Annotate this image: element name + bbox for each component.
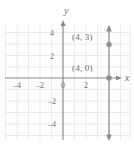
x-tick-label-0: 0 [55,82,71,90]
x-tick-label-neg2: –2 [32,82,48,90]
y-tick-label-neg4: –4 [44,121,60,129]
graph-figure: y x –4 –2 0 2 4 2 –2 –4 (4, 3) (4, 0) [0,0,134,150]
point-4-3 [106,42,111,47]
y-axis-label: y [64,6,68,16]
point-4-0 [106,75,111,80]
coordinate-plane [0,0,134,150]
x-axis-label: x [125,73,129,83]
point-label-4-0: (4, 0) [72,64,93,73]
y-tick-label-4: 4 [44,30,60,38]
x-tick-label-neg4: –4 [9,82,25,90]
y-tick-label-neg2: –2 [44,98,60,106]
y-tick-label-2: 2 [44,53,60,61]
y-axis [60,20,65,140]
point-label-4-3: (4, 3) [72,33,93,42]
x-tick-label-2: 2 [78,82,94,90]
